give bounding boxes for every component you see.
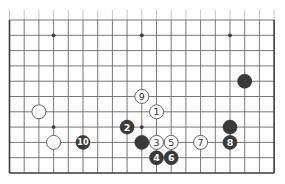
board-continuation-stubs — [10, 10, 275, 20]
move-number: 1 — [153, 106, 159, 117]
white-stone-5: 5 — [164, 135, 178, 149]
black-stone-6: 6 — [164, 151, 178, 165]
white-stone-1: 1 — [150, 105, 164, 119]
stone-disc — [135, 135, 149, 149]
stone-disc — [238, 74, 252, 88]
star-point — [52, 33, 56, 37]
white-stone-9: 9 — [135, 90, 149, 104]
black-stone-10: 10 — [76, 135, 90, 149]
stone-disc — [32, 105, 46, 119]
go-board: 12345678910 — [0, 0, 285, 184]
black-stone-2: 2 — [120, 120, 134, 134]
move-number: 5 — [168, 137, 174, 148]
black-stone — [223, 120, 237, 134]
stone-disc — [47, 135, 61, 149]
black-stone — [135, 135, 149, 149]
black-stone — [238, 74, 252, 88]
move-number: 3 — [153, 137, 159, 148]
star-point — [52, 125, 56, 129]
white-stone-7: 7 — [194, 135, 208, 149]
black-stone-8: 8 — [223, 135, 237, 149]
black-stone-4: 4 — [150, 151, 164, 165]
white-stone — [32, 105, 46, 119]
white-stone — [47, 135, 61, 149]
move-number: 4 — [153, 152, 160, 163]
move-number: 2 — [124, 122, 131, 133]
star-point — [140, 125, 144, 129]
move-number: 6 — [168, 152, 175, 163]
move-number: 9 — [139, 91, 145, 102]
move-number: 10 — [77, 137, 89, 147]
star-point — [228, 33, 232, 37]
move-number: 7 — [198, 137, 204, 148]
move-number: 8 — [227, 137, 234, 148]
star-point — [140, 33, 144, 37]
stone-disc — [223, 120, 237, 134]
white-stone-3: 3 — [150, 135, 164, 149]
